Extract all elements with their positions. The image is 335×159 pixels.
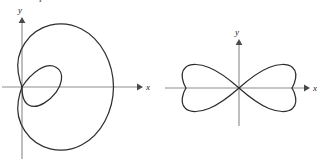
limacon-y-axis-arrow-icon	[19, 17, 26, 23]
limacon-x-axis-label: x	[145, 82, 150, 92]
limacon-inner-loop-curve	[22, 66, 62, 107]
lemniscate-y-axis-arrow-icon	[236, 39, 243, 45]
polar-curves-figure: 21. Limaçon 22. Lemniscate x y x	[0, 0, 335, 159]
limacon-plot: x y	[0, 0, 160, 159]
lemniscate-plot: x y	[160, 0, 335, 159]
panel-limacon: x y	[0, 0, 160, 159]
panel-lemniscate: x y	[160, 0, 335, 159]
lemniscate-x-axis-label: x	[312, 83, 317, 93]
limacon-x-axis-arrow-icon	[137, 84, 143, 91]
lemniscate-x-axis-arrow-icon	[304, 85, 310, 92]
lemniscate-y-axis-label: y	[234, 27, 239, 37]
limacon-y-axis-label: y	[17, 5, 22, 15]
